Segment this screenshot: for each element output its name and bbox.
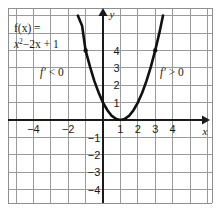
function-formula-lead: f(x) = — [14, 22, 41, 35]
y-tick-label-2: 2 — [113, 79, 119, 91]
y-axis-label: y — [109, 8, 115, 20]
y-tick-label-4: 4 — [113, 45, 119, 57]
parabola-derivative-figure: −4 −2 1 2 3 4 4 3 2 1 −1 −2 −3 −4 x y f(… — [0, 0, 217, 211]
function-formula-line1: f(x) = — [14, 22, 41, 35]
y-tick-label--2: −2 — [88, 149, 101, 161]
y-tick-label--4: −4 — [88, 184, 101, 196]
annotation-left-function: f′ — [40, 66, 46, 79]
annotation-derivative-positive: f′> 0 — [160, 66, 184, 79]
x-tick-label-4: 4 — [170, 123, 176, 135]
coordinate-plane: −4 −2 1 2 3 4 4 3 2 1 −1 −2 −3 −4 x y f(… — [0, 0, 217, 211]
function-formula-rest: −2x + 1 — [23, 38, 59, 50]
y-tick-label--3: −3 — [88, 166, 101, 178]
annotation-left-relation: < 0 — [49, 66, 64, 78]
y-tick-label--1: −1 — [88, 132, 101, 144]
y-tick-label-1: 1 — [113, 97, 119, 109]
annotation-right-function: f′ — [160, 66, 166, 79]
y-tick-label-3: 3 — [113, 62, 119, 74]
x-tick-label-2: 2 — [135, 123, 141, 135]
annotation-right-relation: > 0 — [169, 66, 184, 78]
annotation-derivative-negative: f′< 0 — [40, 66, 64, 79]
x-tick-label-1: 1 — [117, 123, 123, 135]
x-tick-label-3: 3 — [152, 123, 158, 135]
x-axis-label: x — [202, 125, 208, 137]
curve-point-marker-right — [153, 48, 157, 52]
x-tick-label--2: −2 — [62, 123, 75, 135]
curve-point-marker-left — [83, 48, 87, 52]
x-tick-label--4: −4 — [27, 123, 40, 135]
